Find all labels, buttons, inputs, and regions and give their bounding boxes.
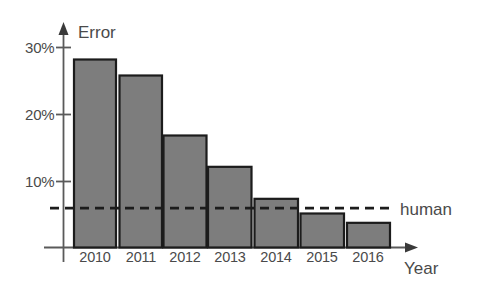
bar-2016[interactable] (347, 223, 390, 248)
bar-2011[interactable] (120, 76, 163, 248)
human-baseline-label: human (400, 200, 452, 219)
y-tick-label-10: 10% (25, 173, 54, 190)
bar-2012[interactable] (164, 136, 207, 248)
error-rate-bar-chart: 30% 20% 10% Error human 2010 2011 2012 2… (0, 0, 484, 286)
y-tick-label-20: 20% (25, 106, 54, 123)
x-tick-label-2015: 2015 (306, 249, 338, 265)
bars-group (74, 60, 390, 248)
chart-canvas: 30% 20% 10% Error human 2010 2011 2012 2… (0, 0, 484, 286)
bar-2013[interactable] (208, 167, 252, 248)
x-tick-label-2011: 2011 (126, 249, 157, 265)
x-axis-tick-labels: 2010 2011 2012 2013 2014 2015 2016 (79, 249, 384, 265)
y-axis-arrow-icon (59, 22, 69, 35)
x-axis-arrow-icon (405, 243, 418, 253)
y-axis (59, 22, 69, 262)
x-tick-label-2012: 2012 (169, 249, 201, 265)
y-axis-title: Error (78, 23, 116, 42)
x-tick-label-2013: 2013 (214, 249, 246, 265)
bar-2010[interactable] (74, 60, 116, 248)
bar-2015[interactable] (301, 214, 345, 248)
y-tick-label-30: 30% (25, 39, 54, 56)
x-tick-label-2014: 2014 (260, 249, 292, 265)
x-axis-title: Year (404, 259, 439, 278)
x-tick-label-2010: 2010 (79, 249, 111, 265)
x-tick-label-2016: 2016 (352, 249, 384, 265)
bar-2014[interactable] (255, 199, 299, 248)
